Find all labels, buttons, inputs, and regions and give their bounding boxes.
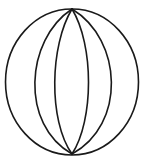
meridian-left-inner: [55, 9, 72, 154]
globe-diagram: [0, 0, 151, 167]
meridian-left-outer: [35, 9, 72, 154]
meridian-right-inner: [72, 9, 89, 154]
outer-circle: [6, 9, 139, 155]
meridian-right-outer: [72, 9, 111, 154]
globe-icon: [0, 0, 151, 167]
